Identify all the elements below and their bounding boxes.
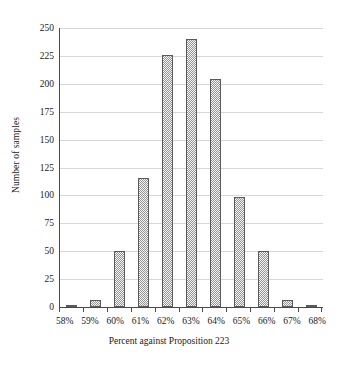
y-axis-tick-label: 250 — [24, 23, 54, 33]
x-axis-tick-label: 65% — [229, 315, 254, 327]
x-axis-tick-label: 67% — [279, 315, 304, 327]
bar[interactable] — [138, 178, 149, 307]
x-axis-tick-slot — [131, 308, 155, 313]
x-axis-tick-label: 58% — [52, 315, 77, 327]
bars-layer — [60, 28, 323, 307]
y-axis-tick-label: 175 — [24, 107, 54, 117]
y-axis-tick-label: 100 — [24, 190, 54, 200]
bar-slot — [203, 28, 227, 307]
x-axis-tick-label: 59% — [77, 315, 102, 327]
x-axis-tick-mark — [226, 308, 227, 312]
x-axis-tick-mark — [179, 308, 180, 312]
bar[interactable] — [234, 197, 245, 307]
x-axis-tick-slot — [298, 308, 322, 313]
x-axis-tick-mark — [298, 308, 299, 312]
bar[interactable] — [162, 55, 173, 307]
histogram-figure: Number of samples 0255075100125150175200… — [0, 0, 338, 370]
x-axis-tick-labels: 58%59%60%61%62%63%64%65%66%67%68% — [52, 315, 330, 327]
y-axis-tick-label: 150 — [24, 135, 54, 145]
y-axis-tick-label: 50 — [24, 246, 54, 256]
y-axis-title: Number of samples — [8, 0, 24, 310]
bar[interactable] — [66, 305, 77, 307]
x-axis-tick-mark — [59, 308, 60, 312]
bar[interactable] — [258, 251, 269, 307]
x-axis-tick-mark — [274, 308, 275, 312]
x-axis-tick-label: 66% — [254, 315, 279, 327]
x-axis-tick-slot — [83, 308, 107, 313]
x-axis-tick-mark — [155, 308, 156, 312]
plot-area — [59, 28, 323, 308]
bar[interactable] — [210, 79, 221, 307]
x-axis-tick-marks — [59, 308, 322, 313]
bar-slot — [84, 28, 108, 307]
bar[interactable] — [90, 300, 101, 307]
x-axis-tick-slot — [226, 308, 250, 313]
bar[interactable] — [282, 300, 293, 307]
x-axis-tick-label: 63% — [178, 315, 203, 327]
x-axis-tick-slot — [274, 308, 298, 313]
y-axis-tick-label: 75 — [24, 218, 54, 228]
x-axis-tick-label: 62% — [153, 315, 178, 327]
x-axis-tick-mark — [107, 308, 108, 312]
x-axis-tick-mark — [250, 308, 251, 312]
bar-slot — [156, 28, 180, 307]
x-axis-tick-mark — [202, 308, 203, 312]
x-axis-tick-mark — [83, 308, 84, 312]
y-axis-tick-label: 0 — [24, 302, 54, 312]
x-axis-tick-slot — [155, 308, 179, 313]
x-axis-tick-label: 60% — [103, 315, 128, 327]
x-axis-tick-slot — [59, 308, 83, 313]
y-axis-tick-label: 225 — [24, 51, 54, 61]
x-axis-tick-mark — [131, 308, 132, 312]
bar-slot — [60, 28, 84, 307]
y-axis-title-text: Number of samples — [11, 117, 21, 193]
bar[interactable] — [186, 39, 197, 307]
x-axis-tick-slot — [107, 308, 131, 313]
x-axis-tick-label: 61% — [128, 315, 153, 327]
bar[interactable] — [114, 251, 125, 307]
bar-slot — [227, 28, 251, 307]
bar-slot — [299, 28, 323, 307]
y-axis-tick-labels: 0255075100125150175200225250 — [24, 22, 54, 312]
x-axis-tick-label: 64% — [204, 315, 229, 327]
bar-slot — [251, 28, 275, 307]
y-axis-tick-label: 25 — [24, 274, 54, 284]
x-axis-tick-label: 68% — [305, 315, 330, 327]
x-axis-tick-slot — [250, 308, 274, 313]
y-axis-tick-label: 200 — [24, 79, 54, 89]
x-axis-tick-slot — [202, 308, 226, 313]
bar-slot — [180, 28, 204, 307]
y-axis-tick-label: 125 — [24, 163, 54, 173]
x-axis-tick-slot — [179, 308, 203, 313]
bar-slot — [132, 28, 156, 307]
bar-slot — [108, 28, 132, 307]
x-axis-title: Percent against Proposition 223 — [0, 336, 338, 346]
x-axis-tick-mark-end — [321, 308, 322, 312]
bar-slot — [275, 28, 299, 307]
bar[interactable] — [306, 305, 317, 307]
